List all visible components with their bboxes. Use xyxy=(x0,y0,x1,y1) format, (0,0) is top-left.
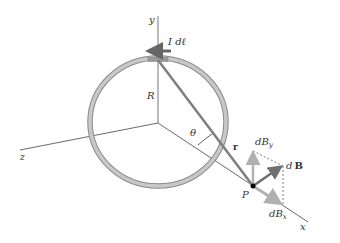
radius-label: R xyxy=(146,90,155,101)
theta-label: θ xyxy=(190,127,196,138)
z-axis-label: z xyxy=(19,152,25,162)
magnetic-loop-diagram: y z x I dℓ R θ r P dBy dB dBx xyxy=(0,0,340,243)
y-axis-label: y xyxy=(148,14,155,25)
axes xyxy=(20,16,308,222)
point-P-label: P xyxy=(241,189,249,200)
x-axis xyxy=(158,123,308,222)
dB-label: dB xyxy=(286,160,303,171)
projection-lines xyxy=(253,151,283,206)
theta-arc xyxy=(198,134,212,145)
dBx-label: dBx xyxy=(269,208,287,221)
x-axis-label: x xyxy=(300,221,306,232)
r-vector-label: r xyxy=(233,142,238,152)
point-P xyxy=(251,184,256,189)
current-element-label: I dℓ xyxy=(167,36,186,47)
dBx-arrow xyxy=(253,186,278,202)
dBy-label: dBy xyxy=(255,136,274,149)
dB-arrow xyxy=(253,168,279,186)
